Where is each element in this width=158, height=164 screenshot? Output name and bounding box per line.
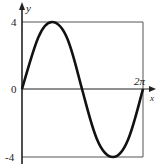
x-axis-label: x	[149, 93, 154, 103]
x-axis-arrow-icon	[149, 86, 156, 92]
y-tick-label-min: -4	[5, 151, 15, 163]
x-period-label: 2π	[134, 75, 146, 87]
sine-chart: y 4 0 -4 2π x	[0, 0, 158, 164]
y-tick-label-max: 4	[11, 16, 17, 28]
y-axis-label: y	[25, 2, 31, 14]
origin-label: 0	[11, 83, 17, 95]
y-axis-arrow-icon	[19, 2, 25, 10]
